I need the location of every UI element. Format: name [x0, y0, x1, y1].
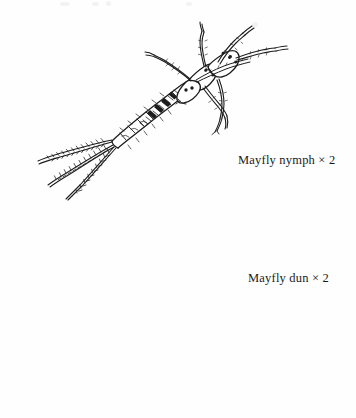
- illustration-page: Mayfly nymph × 2: [0, 0, 356, 418]
- caption-mayfly-nymph: Mayfly nymph × 2: [238, 153, 335, 168]
- caption-mayfly-dun: Mayfly dun × 2: [248, 271, 329, 286]
- nymph-eye-right: [190, 86, 193, 89]
- nymph-legs: [145, 22, 288, 135]
- mayfly-dun-illustration: [0, 209, 356, 418]
- nymph-eye-left: [184, 88, 187, 91]
- mayfly-nymph-illustration: [0, 0, 356, 209]
- nymph-cerci: [38, 139, 116, 201]
- nymph-head: [176, 80, 200, 104]
